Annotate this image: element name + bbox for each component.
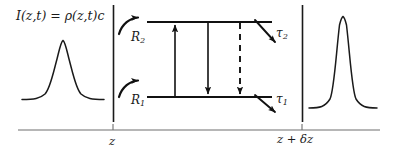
decay-time-upper-label: τ2 (276, 27, 288, 40)
output-pulse-curve (309, 17, 377, 109)
axis-tick-label-z: z (109, 136, 115, 148)
axis-tick-label-z-plus-delta-z: z + δz (277, 134, 313, 146)
pump-rate-lower-subscript: 1 (140, 98, 145, 108)
decay-time-lower-subscript: 1 (283, 97, 288, 107)
pump-rate-lower-label: R1 (131, 94, 145, 107)
intensity-equation: I(z,t) = ρ(z,t)c (16, 10, 104, 23)
input-pulse-curve (22, 41, 104, 100)
figure-canvas (0, 0, 397, 159)
decay-time-lower-symbol: τ (276, 92, 283, 106)
pump-rate-upper-label: R2 (131, 31, 145, 44)
position-axis (18, 124, 380, 130)
decay-time-lower-label: τ1 (276, 93, 288, 106)
pump-rate-upper-symbol: R (131, 30, 140, 44)
energy-level-diagram (147, 22, 272, 97)
decay-time-upper-subscript: 2 (283, 31, 288, 41)
decay-time-upper-arrow (255, 20, 275, 42)
decay-time-upper-symbol: τ (276, 26, 283, 40)
pump-rate-lower-symbol: R (131, 93, 140, 107)
amplifier-slab-figure: I(z,t) = ρ(z,t)c R2 R1 τ2 τ1 z z + δz (0, 0, 397, 159)
pump-rate-upper-subscript: 2 (140, 35, 145, 45)
